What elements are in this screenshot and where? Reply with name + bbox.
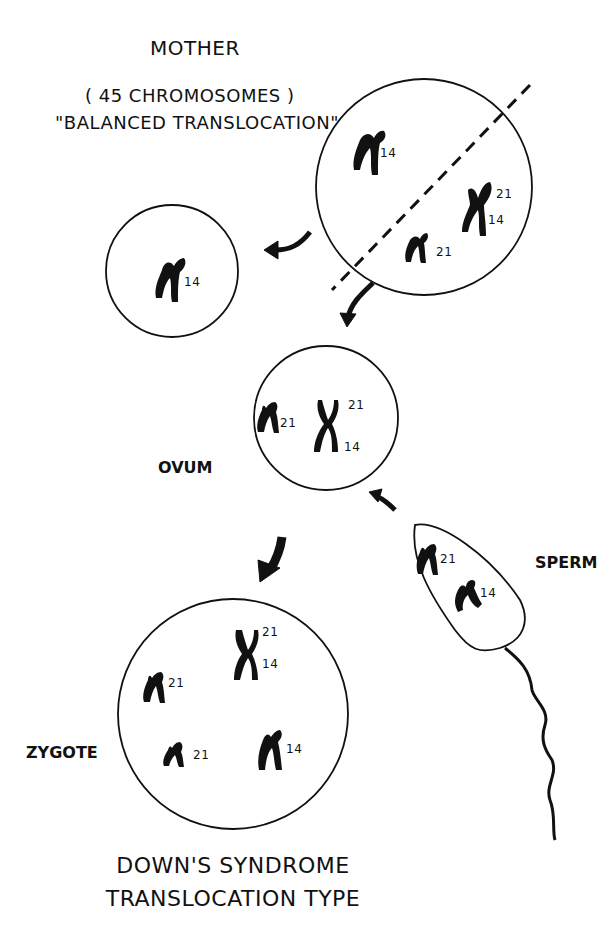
chromosome-label: 21 [193, 748, 209, 762]
chromosome-label: 14 [286, 742, 302, 756]
chromosome-label: 21 [168, 676, 184, 690]
chromosome-label: 14 [380, 146, 396, 160]
chromosome-label: 21 [440, 552, 456, 566]
chromosome-label: 21 [348, 398, 364, 412]
chromosome-label: 14 [344, 440, 360, 454]
diagram-canvas [0, 0, 613, 940]
sperm-tail [505, 648, 555, 840]
caption-line-1: DOWN'S SYNDROME [33, 853, 433, 878]
zygote-cell [118, 599, 348, 829]
ovum-label: OVUM [158, 458, 212, 477]
caption-line-2: TRANSLOCATION TYPE [33, 886, 433, 911]
arrow-to-discarded [275, 232, 310, 250]
chromosome-label: 21 [436, 245, 452, 259]
chromosome-label: 14 [262, 657, 278, 671]
arrow-sperm-to-ovum [378, 497, 395, 510]
mother-type-label: "BALANCED TRANSLOCATION" [55, 112, 339, 133]
arrow-to-ovum [348, 283, 373, 318]
sperm-label: SPERM [535, 553, 597, 572]
chromosome-label: 21 [262, 625, 278, 639]
chromosome-label: 21 [280, 416, 296, 430]
chromosome-label: 14 [488, 213, 504, 227]
mother-count-label: ( 45 CHROMOSOMES ) [85, 85, 295, 106]
chromosome-label: 14 [480, 586, 496, 600]
zygote-label: ZYGOTE [26, 743, 98, 762]
mother-label: MOTHER [150, 36, 240, 60]
chromosome-label: 14 [184, 275, 200, 289]
chromosome-label: 21 [496, 187, 512, 201]
